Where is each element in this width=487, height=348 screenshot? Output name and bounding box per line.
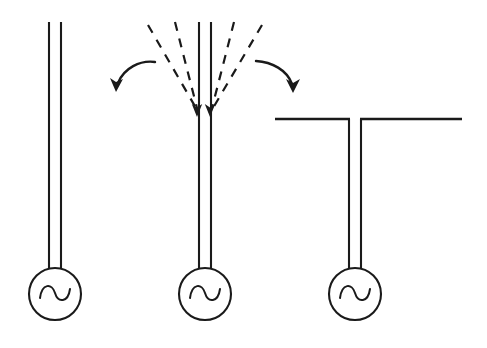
dashed-ray-outer-left <box>148 25 196 108</box>
stage-1-open-transmission-line <box>29 22 81 320</box>
stage-2-ac-source <box>179 268 231 320</box>
diagram-canvas <box>0 0 487 348</box>
dashed-ray-inner-left <box>175 22 197 108</box>
curved-arrow-right-shaft <box>256 61 292 84</box>
curved-arrow-left-shaft <box>118 62 155 83</box>
curved-arrow-right-head <box>286 79 300 93</box>
antenna-evolution-diagram <box>0 0 487 348</box>
stage-3-ac-source <box>329 268 381 320</box>
curved-arrow-left-head <box>110 78 123 92</box>
dashed-ray-inner-right <box>212 22 234 108</box>
stage-2-flaring-transmission-line <box>110 22 300 320</box>
dashed-field-rays <box>148 22 262 108</box>
dashed-ray-outer-right <box>213 25 262 108</box>
stage-3-dipole-antenna <box>275 119 462 320</box>
curved-arrow-right <box>256 61 300 93</box>
stage-1-ac-source <box>29 268 81 320</box>
curved-arrow-left <box>110 62 155 92</box>
